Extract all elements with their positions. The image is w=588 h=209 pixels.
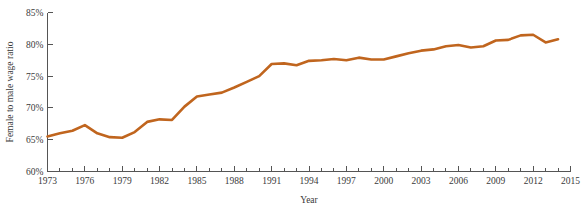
x-tick-label: 2009: [486, 176, 505, 186]
x-axis-title: Year: [300, 195, 318, 205]
y-tick-label: 80%: [26, 40, 44, 50]
x-tick-label: 1988: [225, 176, 244, 186]
x-tick-label: 2015: [561, 176, 580, 186]
y-axis-title: Female to male wage ratio: [5, 41, 15, 142]
line-chart: 85%80%75%70%65%60% 197319761979198219851…: [0, 0, 588, 209]
data-series: [48, 35, 559, 138]
x-tick-label: 1985: [187, 176, 206, 186]
y-tick-labels: 85%80%75%70%65%60%: [26, 8, 44, 177]
axis-spines: [48, 13, 571, 172]
x-tick-label: 1997: [337, 176, 356, 186]
x-tick-label: 2006: [449, 176, 468, 186]
axes: [48, 13, 571, 172]
x-tick-label: 2012: [524, 176, 543, 186]
x-tick-label: 1982: [150, 176, 169, 186]
x-tick-label: 2003: [412, 176, 431, 186]
y-tick-label: 75%: [26, 72, 44, 82]
y-tick-label: 70%: [26, 103, 44, 113]
x-tick-label: 1976: [75, 176, 94, 186]
y-tick-label: 65%: [26, 135, 44, 145]
chart-container: 85%80%75%70%65%60% 197319761979198219851…: [0, 0, 588, 209]
x-tick-labels: 1973197619791982198519881991199419972000…: [38, 176, 580, 186]
x-tick-label: 1994: [300, 176, 319, 186]
y-tick-label: 85%: [26, 8, 44, 18]
data-line-female-to-male-wage-ratio: [48, 35, 559, 138]
x-tick-label: 2000: [374, 176, 393, 186]
tick-marks: [48, 13, 571, 172]
x-tick-label: 1991: [262, 176, 281, 186]
x-tick-label: 1973: [38, 176, 57, 186]
x-tick-label: 1979: [113, 176, 132, 186]
